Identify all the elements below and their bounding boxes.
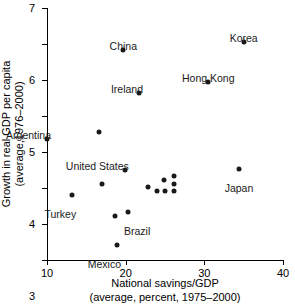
x-tick: 20: [126, 260, 127, 265]
data-point: [236, 166, 241, 171]
data-point: [113, 214, 118, 219]
point-label: Argentina: [6, 130, 51, 141]
y-tick-label: 5: [29, 147, 35, 158]
point-label: China: [110, 41, 137, 52]
y-tick-label: 7: [29, 3, 35, 14]
data-point: [100, 181, 105, 186]
data-point: [70, 192, 75, 197]
scatter-chart-figure: Growth in real GDP per capita (average,1…: [0, 0, 295, 307]
point-label: Hong Kong: [182, 73, 235, 84]
y-tick: 5: [42, 80, 47, 81]
point-label: Ireland: [111, 84, 143, 95]
plot-area: 01234567 10203040 ArgentinaChinaIrelandK…: [47, 8, 283, 260]
y-tick: 3: [42, 152, 47, 153]
data-point: [172, 189, 177, 194]
point-label: Japan: [225, 183, 254, 194]
data-point: [155, 188, 160, 193]
x-tick: 40: [283, 260, 284, 265]
point-label: Mexico: [88, 259, 121, 270]
x-axis-title-line2: (average, percent, 1975–2000): [47, 290, 283, 304]
y-tick-label: 3: [29, 291, 35, 302]
y-tick: 4: [42, 116, 47, 117]
point-label: Korea: [230, 33, 258, 44]
point-label: Turkey: [44, 209, 76, 220]
x-tick: 30: [204, 260, 205, 265]
data-point: [126, 210, 131, 215]
data-point: [162, 178, 167, 183]
data-point: [163, 189, 168, 194]
data-point: [146, 184, 151, 189]
x-tick: 10: [47, 260, 48, 265]
x-axis-title-line1: National savings/GDP: [47, 276, 283, 290]
y-tick-label: 4: [29, 219, 35, 230]
data-point: [172, 174, 177, 179]
x-axis-line: [47, 260, 284, 261]
point-label: United States: [66, 161, 129, 172]
y-tick: 1: [42, 224, 47, 225]
y-tick: 2: [42, 188, 47, 189]
data-point: [96, 130, 101, 135]
point-label: Brazil: [124, 226, 150, 237]
x-axis-title: National savings/GDP (average, percent, …: [47, 276, 283, 304]
data-point: [172, 182, 177, 187]
y-tick: 6: [42, 44, 47, 45]
data-point: [115, 242, 120, 247]
y-tick-label: 6: [29, 75, 35, 86]
y-tick: 7: [42, 8, 47, 9]
